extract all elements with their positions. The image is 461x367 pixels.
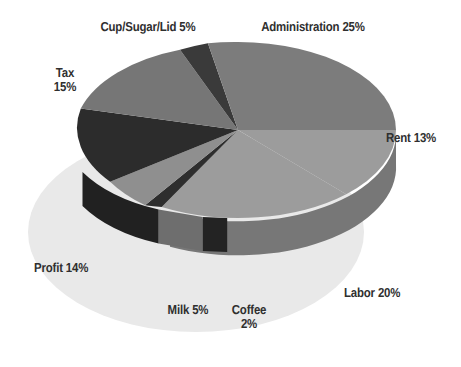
slice-label-profit: Profit 14% <box>34 261 111 275</box>
slice-label-cup-sugar-lid: Cup/Sugar/Lid 5% <box>86 20 209 34</box>
slice-label-tax-line1: Tax <box>56 65 74 80</box>
slice-label-coffee: Coffee2% <box>223 303 276 331</box>
slice-label-rent: Rent 13% <box>386 131 451 145</box>
side-wall-coffee <box>203 217 228 252</box>
slice-label-milk: Milk 5% <box>159 303 217 317</box>
pie-top-faces <box>77 42 396 218</box>
slice-label-administration: Administration 25% <box>247 20 379 34</box>
slice-label-tax-line2: 15% <box>54 79 76 94</box>
slice-label-coffee-line2: 2% <box>241 316 257 331</box>
pie-chart: Cup/Sugar/Lid 5% Administration 25% Tax1… <box>0 0 461 367</box>
slice-label-tax: Tax15% <box>34 66 96 94</box>
slice-label-labor: Labor 20% <box>344 286 423 300</box>
pie-slice-administration <box>238 42 396 130</box>
slice-label-coffee-line1: Coffee <box>232 302 267 317</box>
